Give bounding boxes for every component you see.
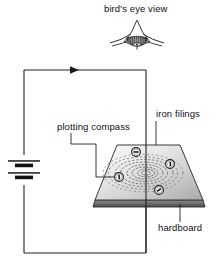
- label-iron-filings: iron filings: [156, 108, 200, 119]
- hardboard-board: [93, 145, 205, 207]
- leader-plotting-compass-a: [71, 133, 96, 144]
- plotting-compass-icon-bottom: [155, 186, 164, 195]
- battery-icon: [8, 160, 40, 179]
- current-direction-arrow-icon: [70, 66, 79, 73]
- label-plotting-compass: plotting compass: [57, 121, 130, 132]
- plotting-compass-icon-top: [132, 148, 141, 157]
- plotting-compass-icon-left: [115, 173, 124, 182]
- label-birds-eye-view: bird's eye view: [104, 3, 168, 14]
- label-hardboard: hardboard: [158, 222, 202, 233]
- plotting-compass-icon-right: [166, 160, 175, 169]
- bird-icon: [110, 20, 164, 50]
